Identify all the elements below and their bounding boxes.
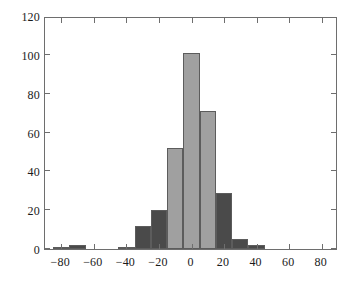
y-axis-tick-mark: [45, 209, 50, 210]
histogram-bar: [183, 53, 199, 249]
y-axis-tick-mark: [331, 248, 336, 249]
bars-layer: [45, 18, 336, 249]
histogram-figure: 020406080100120 −80−60−40−20020406080: [0, 0, 359, 291]
y-axis-tick-mark: [45, 54, 50, 55]
x-axis-tick-mark: [192, 244, 193, 249]
y-axis-tick-mark: [331, 93, 336, 94]
x-axis-tick-mark: [289, 244, 290, 249]
x-axis-tick-mark: [257, 18, 258, 23]
y-axis-tick-label: 120: [2, 11, 40, 23]
x-axis-tick-mark: [192, 18, 193, 23]
y-axis-tick-mark: [331, 170, 336, 171]
histogram-bar: [200, 111, 216, 249]
histogram-bar: [69, 245, 85, 249]
y-axis-tick-mark: [45, 170, 50, 171]
histogram-bar: [135, 226, 151, 249]
x-axis-tick-mark: [126, 244, 127, 249]
histogram-bar: [216, 193, 232, 249]
y-axis-tick-mark: [45, 132, 50, 133]
histogram-bar: [232, 239, 248, 249]
x-axis-tick-mark: [61, 244, 62, 249]
x-axis-tick-mark: [224, 18, 225, 23]
y-axis-tick-mark: [331, 54, 336, 55]
histogram-bar: [167, 148, 183, 249]
y-axis-tick-label: 100: [2, 50, 40, 62]
x-axis-tick-mark: [289, 18, 290, 23]
y-axis-tick-label: 20: [2, 205, 40, 217]
x-axis-tick-mark: [94, 18, 95, 23]
x-axis-tick-mark: [322, 244, 323, 249]
x-axis-tick-mark: [126, 18, 127, 23]
x-axis-tick-labels: −80−60−40−20020406080: [44, 256, 337, 276]
y-axis-tick-mark: [45, 248, 50, 249]
x-axis-tick-mark: [159, 244, 160, 249]
x-axis-tick-mark: [159, 18, 160, 23]
y-axis-tick-label: 60: [2, 128, 40, 140]
y-axis-tick-label: 0: [2, 244, 40, 256]
x-axis-tick-mark: [94, 244, 95, 249]
plot-area: [44, 17, 337, 250]
y-axis-tick-label: 40: [2, 166, 40, 178]
y-axis-tick-mark: [45, 93, 50, 94]
y-axis-tick-mark: [331, 132, 336, 133]
y-axis-tick-labels: 020406080100120: [0, 17, 40, 250]
x-axis-tick-mark: [322, 18, 323, 23]
x-axis-tick-mark: [257, 244, 258, 249]
x-axis-tick-mark: [224, 244, 225, 249]
x-axis-tick-label: 80: [299, 256, 343, 268]
y-axis-tick-mark: [331, 209, 336, 210]
y-axis-tick-label: 80: [2, 89, 40, 101]
x-axis-tick-mark: [61, 18, 62, 23]
